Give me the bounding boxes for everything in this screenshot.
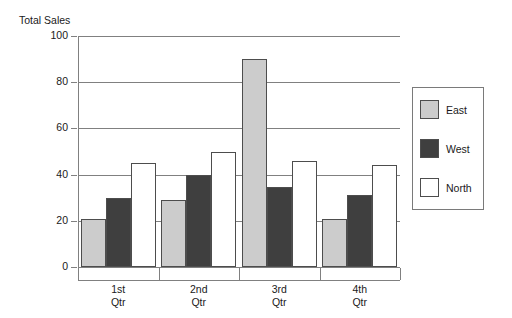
y-tick-mark [71, 175, 77, 176]
chart-legend: EastWestNorth [412, 87, 484, 210]
y-tick-mark [71, 82, 77, 83]
y-tick-label: 40 [0, 169, 68, 180]
gridline-60 [78, 128, 400, 129]
x-category-label-line2: Qtr [78, 296, 158, 309]
x-category-label-line2: Qtr [239, 296, 319, 309]
x-category-label-1: 1stQtr [78, 283, 158, 309]
bar-north-3 [292, 161, 317, 267]
gridline-80 [78, 82, 400, 83]
x-category-label-line1: 4th [352, 283, 367, 295]
x-category-label-line1: 1st [111, 283, 125, 295]
legend-swatch-icon-west [420, 139, 439, 158]
x-tick-mark [78, 268, 79, 280]
legend-swatch-icon-east [420, 100, 439, 119]
legend-label: North [446, 182, 472, 194]
bar-north-1 [131, 163, 156, 267]
x-category-label-line2: Qtr [159, 296, 239, 309]
y-tick-label: 80 [0, 76, 68, 87]
bar-west-4 [347, 195, 372, 267]
legend-swatch-icon-north [420, 178, 439, 197]
y-axis-labels: 020406080100 [0, 0, 68, 318]
legend-label: East [446, 104, 467, 116]
y-tick-mark [71, 128, 77, 129]
gridline-100 [78, 36, 400, 37]
y-tick-mark [71, 221, 77, 222]
bar-east-2 [161, 200, 186, 267]
bar-north-2 [211, 152, 236, 268]
x-category-label-line1: 2nd [190, 283, 208, 295]
x-axis-line [78, 280, 400, 281]
bar-west-1 [106, 198, 131, 267]
y-tick-label: 60 [0, 122, 68, 133]
plot-area [78, 36, 400, 267]
bar-east-4 [322, 219, 347, 268]
legend-item-west[interactable]: West [420, 139, 470, 158]
legend-item-north[interactable]: North [420, 178, 472, 197]
x-category-label-line2: Qtr [320, 296, 400, 309]
x-tick-mark [159, 268, 160, 280]
bar-chart-figure: Total Sales 020406080100 1stQtr2ndQtr3rd… [0, 0, 512, 318]
x-category-label-line1: 3rd [272, 283, 287, 295]
bar-north-4 [372, 165, 397, 267]
legend-label: West [446, 143, 470, 155]
y-tick-label: 100 [0, 30, 68, 41]
x-category-label-3: 3rdQtr [239, 283, 319, 309]
legend-item-east[interactable]: East [420, 100, 467, 119]
x-tick-mark [239, 268, 240, 280]
y-tick-mark [71, 267, 77, 268]
bar-west-2 [186, 175, 211, 267]
y-tick-label: 0 [0, 261, 68, 272]
y-tick-mark [71, 36, 77, 37]
x-category-label-4: 4thQtr [320, 283, 400, 309]
x-tick-mark [400, 268, 401, 280]
bar-west-3 [267, 187, 292, 267]
bar-east-1 [81, 219, 106, 268]
gridline-40 [78, 175, 400, 176]
y-tick-label: 20 [0, 215, 68, 226]
x-category-label-2: 2ndQtr [159, 283, 239, 309]
x-tick-mark [320, 268, 321, 280]
bar-east-3 [242, 59, 267, 267]
